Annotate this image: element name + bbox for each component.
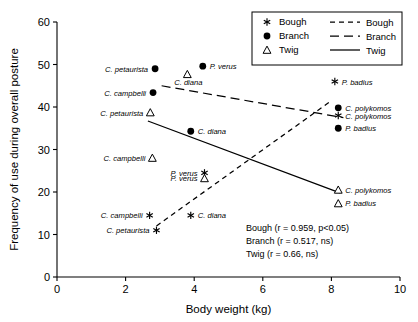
- trendline-branch: [162, 86, 344, 118]
- marker-bough: [332, 78, 338, 85]
- stats-annotation: Bough (r = 0.959, p<0.05)Branch (r = 0.5…: [246, 223, 349, 259]
- annotation-line: Bough (r = 0.959, p<0.05): [246, 223, 349, 233]
- point-label: C. polykomos: [345, 186, 391, 195]
- marker-twig: [334, 200, 342, 207]
- marker-twig: [201, 175, 209, 182]
- marker-twig: [334, 186, 342, 193]
- marker-branch: [335, 104, 342, 111]
- marker-twig: [183, 70, 191, 77]
- trendline-bough: [156, 101, 331, 226]
- y-tick-label: 50: [38, 59, 50, 71]
- legend-label-twig: Twig: [279, 44, 299, 55]
- x-tick-label: 10: [394, 283, 406, 295]
- point-label: C. campbelli: [104, 89, 146, 98]
- legend-marker-branch: [264, 33, 271, 40]
- marker-bough: [153, 227, 159, 234]
- y-tick-label: 40: [38, 101, 50, 113]
- y-tick-label: 10: [38, 229, 50, 241]
- marker-branch: [150, 89, 157, 96]
- point-label: C. petaurista: [105, 65, 148, 74]
- scatter-plot: 01020304050600246810Body weight (kg)Freq…: [0, 0, 418, 322]
- marker-branch: [152, 65, 159, 72]
- point-label: C. petaurista: [100, 109, 143, 118]
- marker-bough: [146, 212, 152, 219]
- x-tick-label: 6: [260, 283, 266, 295]
- trendlines: [148, 86, 344, 226]
- y-axis-title: Frequency of use during overall posture: [8, 48, 20, 251]
- point-label: C. campbelli: [101, 211, 143, 220]
- x-tick-label: 8: [328, 283, 334, 295]
- y-tick-label: 60: [38, 16, 50, 28]
- point-label: P. badius: [345, 124, 376, 133]
- legend-line-label-branch: Branch: [366, 31, 396, 42]
- marker-branch: [335, 125, 342, 132]
- point-label: P. badius: [342, 78, 373, 87]
- marker-branch: [187, 128, 194, 135]
- marker-bough: [335, 112, 341, 119]
- data-points: C. petauristaC. campbelliC. dianaP. veru…: [100, 62, 391, 235]
- point-label: C. diana: [198, 127, 226, 136]
- x-tick-label: 2: [123, 283, 129, 295]
- point-label: C. diana: [198, 211, 226, 220]
- marker-branch: [199, 63, 206, 70]
- point-label: P. verus: [210, 62, 237, 71]
- annotation-line: Branch (r = 0.517, ns): [246, 236, 333, 246]
- annotation-line: Twig (r = 0.66, ns): [246, 249, 318, 259]
- y-tick-label: 0: [44, 271, 50, 283]
- legend-label-branch: Branch: [279, 30, 309, 41]
- chart-legend: BoughBranchTwigBoughBranchTwig: [252, 12, 402, 65]
- point-label: C. petaurista: [106, 226, 149, 235]
- point-label: C. polykomos: [345, 104, 391, 113]
- point-label: C. campbelli: [104, 154, 146, 163]
- marker-bough: [188, 212, 194, 219]
- y-tick-label: 30: [38, 144, 50, 156]
- marker-twig: [148, 154, 156, 161]
- legend-line-label-twig: Twig: [366, 45, 386, 56]
- x-axis-title: Body weight (kg): [186, 303, 272, 315]
- x-tick-label: 0: [54, 283, 60, 295]
- y-tick-label: 20: [38, 186, 50, 198]
- point-label: P. verus: [171, 174, 198, 183]
- point-label: C. diana: [174, 78, 202, 87]
- chart-figure: 01020304050600246810Body weight (kg)Freq…: [0, 0, 418, 322]
- marker-twig: [146, 109, 154, 116]
- legend-label-bough: Bough: [279, 16, 306, 27]
- x-tick-label: 4: [191, 283, 197, 295]
- point-label: P. badius: [345, 199, 376, 208]
- legend-line-label-bough: Bough: [366, 17, 393, 28]
